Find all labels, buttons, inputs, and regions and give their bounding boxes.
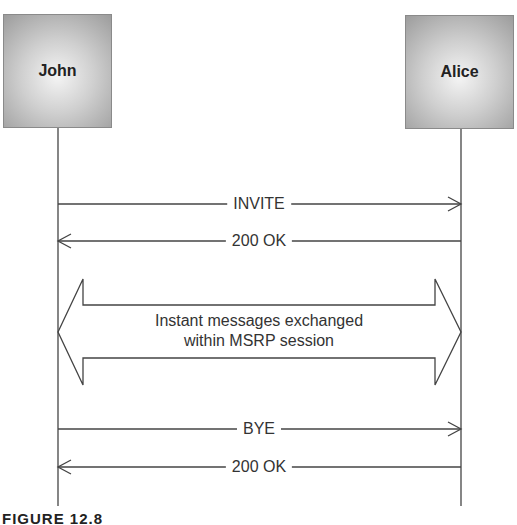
msrp-session-label: Instant messages exchanged within MSRP s… [155, 311, 363, 351]
msrp-session-label-line2: within MSRP session [155, 331, 363, 351]
message-invite-label: INVITE [227, 195, 291, 213]
message-bye-label: BYE [237, 420, 281, 438]
figure-caption: FIGURE 12.8 [2, 510, 103, 525]
msrp-session-label-line1: Instant messages exchanged [155, 311, 363, 331]
message-200ok-label-1: 200 OK [226, 232, 292, 250]
message-200ok-label-2: 200 OK [226, 458, 292, 476]
sequence-diagram-lines [0, 0, 517, 525]
